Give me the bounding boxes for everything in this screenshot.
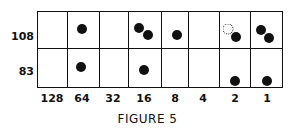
column-divider: [99, 12, 100, 87]
column-divider: [161, 12, 162, 87]
dot-108-8: [172, 30, 182, 40]
dot-83-16: [139, 65, 149, 75]
column-divider: [250, 12, 251, 87]
place-value-grid: [37, 11, 283, 88]
row-label-83: 83: [4, 65, 34, 78]
column-label-64: 64: [74, 92, 89, 105]
dot-108-1b: [264, 33, 274, 43]
row-label-108: 108: [4, 30, 34, 43]
column-label-2: 2: [231, 92, 239, 105]
column-divider: [188, 12, 189, 87]
column-label-32: 32: [105, 92, 120, 105]
dot-83-1: [262, 76, 272, 86]
dot-83-64: [76, 62, 86, 72]
figure-caption: FIGURE 5: [0, 112, 295, 126]
column-label-1: 1: [263, 92, 271, 105]
column-label-4: 4: [199, 92, 207, 105]
column-divider: [219, 12, 220, 87]
dot-108-2: [231, 32, 241, 42]
column-label-16: 16: [136, 92, 151, 105]
row-divider: [38, 48, 282, 49]
column-label-128: 128: [41, 92, 64, 105]
column-divider: [67, 12, 68, 87]
dot-108-64: [77, 24, 87, 34]
column-label-8: 8: [171, 92, 179, 105]
dot-108-16a: [134, 23, 144, 33]
dot-108-16b: [143, 30, 153, 40]
dot-83-2: [230, 76, 240, 86]
column-divider: [128, 12, 129, 87]
